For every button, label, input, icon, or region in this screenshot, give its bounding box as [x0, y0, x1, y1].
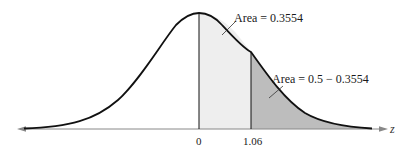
z-axis-label: z [390, 123, 395, 135]
right-arrow-icon [379, 126, 388, 131]
normal-curve [24, 13, 372, 129]
area-tail-region [251, 52, 372, 129]
tick-label-1-06: 1.06 [243, 136, 262, 147]
center-area-label: Area = 0.3554 [234, 12, 303, 24]
area-center-region [199, 13, 251, 129]
tail-area-label: Area = 0.5 − 0.3554 [272, 73, 369, 85]
tick-label-zero: 0 [196, 136, 202, 147]
